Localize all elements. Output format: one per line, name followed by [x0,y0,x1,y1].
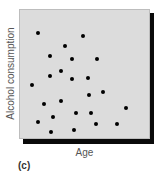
data-point [87,93,91,97]
data-point [36,31,40,35]
x-axis-label: Age [19,147,150,158]
data-point [89,111,93,115]
plot-area [19,9,150,139]
data-point [86,76,90,80]
data-point [48,54,52,58]
data-point [124,106,128,110]
panel-label: (c) [18,160,30,171]
data-point [81,34,85,38]
data-point [101,90,105,94]
data-point [48,74,52,78]
data-point [59,99,63,103]
scatter-figure: Alcohol consumption Age (c) [0,0,162,174]
data-point [94,122,98,126]
data-point [70,57,74,61]
data-point [49,130,53,134]
data-point [95,57,99,61]
data-point [51,115,55,119]
data-point [74,111,78,115]
data-point [42,102,46,106]
data-point [63,44,67,48]
data-point [72,128,76,132]
data-point [115,122,119,126]
data-point [36,120,40,124]
data-point [59,69,63,73]
data-point [70,77,74,81]
data-point [30,83,34,87]
y-axis-label: Alcohol consumption [5,11,16,137]
